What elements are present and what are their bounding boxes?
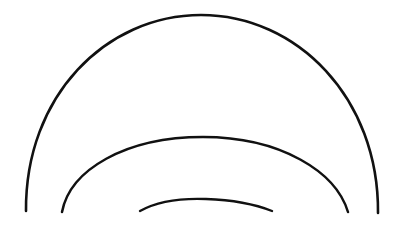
drawing-canvas — [0, 0, 409, 229]
arc-figure — [0, 0, 409, 229]
canvas-background — [0, 0, 409, 229]
